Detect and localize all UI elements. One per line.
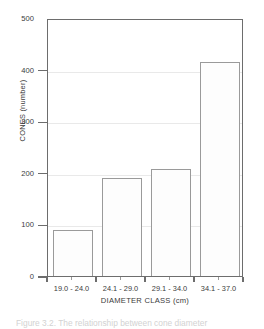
y-tick-label: 300 [0,117,34,126]
x-tick-minor [218,277,219,280]
bar-chart-figure: CONES (number) 0100200300400500 19.0 - 2… [0,0,264,329]
figure-caption: Figure 3.2. The relationship between con… [16,318,256,328]
x-tick-mark [193,277,194,282]
y-tick-label: 200 [0,169,34,178]
x-category-label: 34.1 - 37.0 [187,284,251,293]
x-tick-mark [144,277,145,282]
x-tick-minor [71,277,72,280]
y-tick-mark [38,70,47,71]
y-tick-label: 400 [0,66,34,75]
x-axis-title: DIAMETER CLASS (cm) [47,296,243,305]
y-tick-mark [38,225,47,226]
y-tick-mark [38,173,47,174]
x-tick-mark [242,277,243,282]
x-tick-mark [95,277,96,282]
y-tick-label: 0 [0,272,34,281]
bar [102,178,142,276]
x-tick-minor [120,277,121,280]
y-tick-label: 500 [0,14,34,23]
bar [200,62,240,276]
y-tick-label: 100 [0,220,34,229]
bar [53,230,93,276]
bar [151,169,191,276]
x-tick-minor [169,277,170,280]
plot-area [47,19,243,277]
y-tick-mark [38,122,47,123]
x-tick-mark [46,277,47,282]
